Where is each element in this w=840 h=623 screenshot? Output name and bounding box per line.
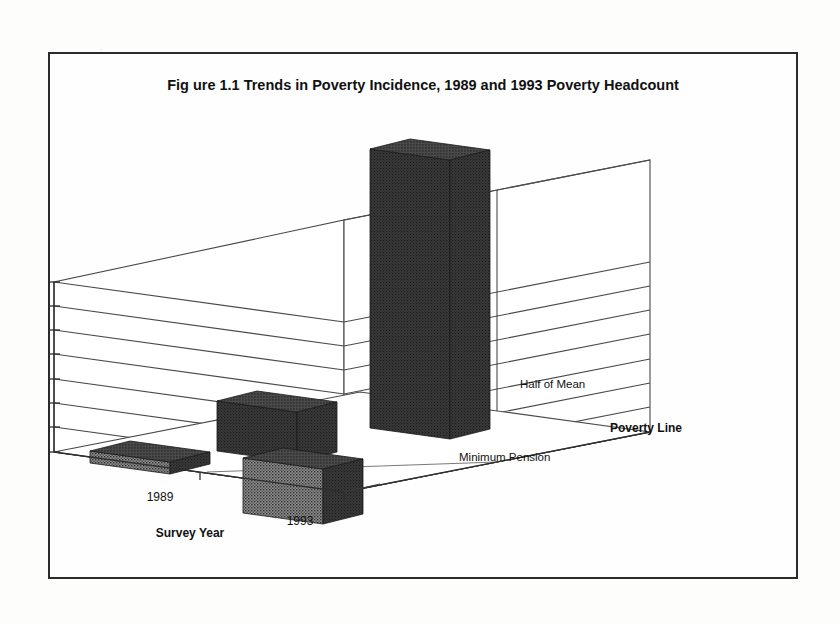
poverty-incidence-3d-bar-chart: Fig ure 1.1 Trends in Poverty Incidence,… (50, 54, 796, 577)
chart-title: Fig ure 1.1 Trends in Poverty Incidence,… (167, 77, 679, 93)
x-tick-1993: 1993 (287, 514, 314, 528)
z-axis-title: Poverty Line (610, 421, 682, 435)
bar-1993-half-of-mean[interactable] (370, 139, 490, 439)
x-axis-title: Survey Year (156, 526, 225, 540)
x-tick-1989: 1989 (147, 490, 174, 504)
z-tick-minimum-pension: Minimum Pension (459, 451, 550, 463)
figure-frame: Fig ure 1.1 Trends in Poverty Incidence,… (48, 52, 798, 579)
z-tick-half-of-mean: Half of Mean (520, 378, 585, 390)
